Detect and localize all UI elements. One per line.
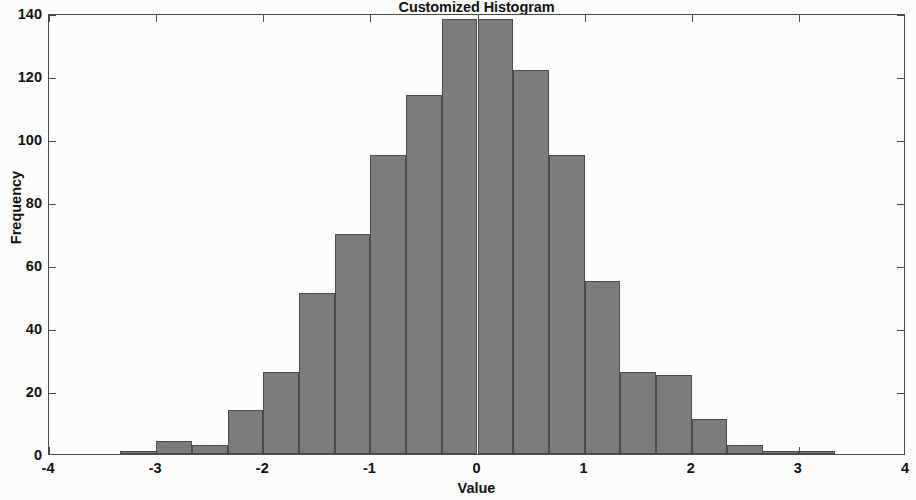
x-tick-mark [263, 15, 264, 22]
histogram-bar [442, 19, 478, 454]
y-tick-mark [897, 204, 904, 205]
x-tick-mark [692, 15, 693, 22]
x-tick-mark [49, 15, 50, 22]
y-tick-mark [897, 330, 904, 331]
x-tick-mark [478, 15, 479, 22]
y-tick-mark [49, 15, 56, 16]
x-tick-mark [799, 447, 800, 454]
x-axis-title: Value [48, 481, 905, 496]
x-tick-mark [263, 447, 264, 454]
histogram-bar [727, 445, 763, 454]
histogram-bar [620, 372, 656, 454]
x-tick-label: -1 [339, 461, 399, 475]
x-tick-mark [478, 447, 479, 454]
x-tick-mark [156, 15, 157, 22]
histogram-bar [192, 445, 228, 454]
histogram-bar [299, 293, 335, 454]
x-tick-mark [370, 15, 371, 22]
plot-area [48, 14, 905, 455]
x-tick-label: 2 [661, 461, 721, 475]
x-tick-mark [156, 447, 157, 454]
x-tick-mark [585, 15, 586, 22]
histogram-bar [478, 19, 514, 454]
y-tick-mark [49, 78, 56, 79]
histogram-bar [120, 451, 156, 454]
y-tick-label: 140 [0, 7, 42, 21]
x-tick-mark [585, 447, 586, 454]
histogram-bar [799, 451, 835, 454]
histogram-bar [335, 234, 371, 455]
histogram-bar [585, 281, 621, 454]
x-tick-mark [49, 447, 50, 454]
y-tick-label: 120 [0, 70, 42, 84]
histogram-figure: Customized Histogram 020406080100120140 … [0, 0, 916, 500]
x-tick-label: 4 [875, 461, 916, 475]
histogram-bar [263, 372, 299, 454]
y-tick-mark [49, 393, 56, 394]
histogram-bar [549, 155, 585, 454]
x-tick-label: -2 [232, 461, 292, 475]
histogram-bar [156, 441, 192, 454]
chart-title: Customized Histogram [48, 0, 905, 14]
histogram-bar [406, 95, 442, 454]
histogram-bars [49, 15, 904, 454]
x-tick-label: -4 [18, 461, 78, 475]
y-axis-title: Frequency [9, 108, 24, 308]
x-tick-mark [692, 447, 693, 454]
histogram-bar [656, 375, 692, 454]
y-tick-label: 0 [0, 448, 42, 462]
histogram-bar [228, 410, 264, 454]
y-tick-mark [897, 78, 904, 79]
histogram-bar [692, 419, 728, 454]
histogram-bar [513, 70, 549, 454]
histogram-bar [763, 451, 799, 454]
y-tick-label: 20 [0, 385, 42, 399]
x-tick-label: 1 [554, 461, 614, 475]
y-tick-mark [49, 204, 56, 205]
x-tick-label: 3 [768, 461, 828, 475]
x-tick-mark [370, 447, 371, 454]
y-tick-mark [897, 15, 904, 16]
y-tick-mark [49, 141, 56, 142]
x-tick-label: -3 [125, 461, 185, 475]
histogram-bar [370, 155, 406, 454]
x-tick-mark [799, 15, 800, 22]
y-tick-mark [897, 393, 904, 394]
y-tick-mark [49, 267, 56, 268]
y-tick-mark [897, 141, 904, 142]
y-tick-mark [897, 267, 904, 268]
y-tick-mark [49, 330, 56, 331]
y-tick-label: 40 [0, 322, 42, 336]
x-tick-label: 0 [447, 461, 507, 475]
